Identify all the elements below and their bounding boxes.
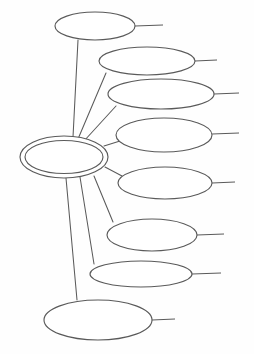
connector-edge bbox=[80, 177, 94, 264]
branch-node[interactable] bbox=[55, 12, 135, 40]
connector-edge bbox=[94, 176, 113, 222]
branch-node[interactable] bbox=[107, 219, 197, 251]
branch-ellipse bbox=[107, 219, 197, 251]
concept-map-canvas bbox=[0, 0, 254, 354]
label-tail-line bbox=[195, 60, 217, 61]
label-tail-line bbox=[197, 234, 224, 235]
connector-edge bbox=[73, 40, 78, 137]
label-tail-line bbox=[135, 25, 163, 26]
hub-inner-ellipse bbox=[25, 141, 103, 174]
connector-edge bbox=[105, 167, 122, 176]
branch-ellipse bbox=[90, 261, 192, 287]
branch-ellipse bbox=[118, 167, 212, 199]
central-hub-node[interactable] bbox=[20, 136, 108, 178]
branch-node[interactable] bbox=[118, 167, 212, 199]
branch-ellipse bbox=[55, 12, 135, 40]
connector-edge bbox=[104, 141, 120, 146]
label-tail-line bbox=[212, 133, 239, 134]
label-tail-line bbox=[192, 273, 221, 274]
branch-node[interactable] bbox=[116, 118, 212, 152]
branch-node[interactable] bbox=[90, 261, 192, 287]
concept-map-svg bbox=[0, 0, 254, 354]
branch-node[interactable] bbox=[44, 300, 152, 340]
label-tail-line bbox=[212, 182, 235, 183]
connector-edge bbox=[84, 106, 116, 141]
branch-ellipse bbox=[99, 47, 195, 75]
connector-edge bbox=[78, 73, 106, 139]
branch-ellipse bbox=[108, 79, 214, 109]
label-tail-line bbox=[214, 93, 239, 94]
connector-edge bbox=[66, 178, 77, 300]
branch-ellipse bbox=[44, 300, 152, 340]
branch-node[interactable] bbox=[99, 47, 195, 75]
branch-ellipse bbox=[116, 118, 212, 152]
branch-node[interactable] bbox=[108, 79, 214, 109]
label-tail-line bbox=[152, 319, 175, 320]
